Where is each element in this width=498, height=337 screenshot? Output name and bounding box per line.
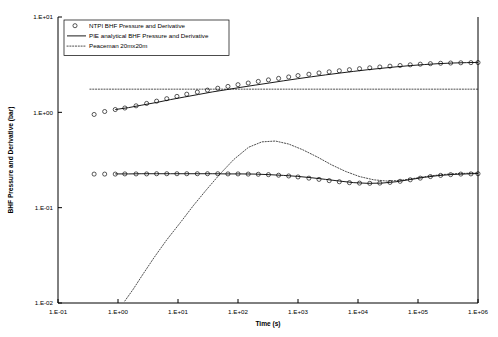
data-point-marker (307, 176, 311, 180)
legend-label: Peaceman 20mx20m (89, 42, 147, 49)
data-point-marker (317, 177, 321, 181)
y-tick-label: 1.E-01 (35, 204, 54, 211)
x-tick-label: 1.E+06 (468, 308, 488, 315)
x-axis-title: Time (s) (255, 320, 280, 328)
y-axis-title: BHF Pressure and Derivative (bar) (7, 106, 15, 213)
data-point-marker (92, 112, 96, 116)
data-point-marker (287, 75, 291, 79)
x-tick-label: 1.E+04 (348, 308, 368, 315)
x-tick-label: 1.E-01 (49, 308, 68, 315)
data-point-marker (185, 92, 189, 96)
x-tick-label: 1.E+00 (108, 308, 128, 315)
axis-frame (58, 17, 478, 303)
x-tick-label: 1.E+01 (168, 308, 188, 315)
chart-figure: 1.E-011.E+001.E+011.E+021.E+031.E+041.E+… (0, 0, 498, 337)
data-point-marker (327, 70, 331, 74)
data-point-marker (307, 72, 311, 76)
data-point-marker (256, 79, 260, 83)
data-point-marker (205, 88, 209, 92)
data-point-marker (418, 62, 422, 66)
x-tick-label: 1.E+02 (228, 308, 248, 315)
data-point-marker (277, 76, 281, 80)
data-point-marker (266, 78, 270, 82)
data-point-marker (337, 180, 341, 184)
series-path (115, 62, 478, 109)
legend-label: NTPI BHF Pressure and Derivative (89, 22, 185, 29)
data-point-marker (92, 172, 96, 176)
legend-label: PIE analytical BHF Pressure and Derivati… (89, 32, 209, 39)
y-tick-label: 1.E-02 (35, 299, 54, 306)
data-point-marker (195, 90, 199, 94)
data-point-marker (347, 68, 351, 72)
data-point-marker (216, 86, 220, 90)
data-point-marker (103, 172, 107, 176)
data-point-marker (246, 81, 250, 85)
data-point-marker (408, 63, 412, 67)
plot-frame (58, 17, 478, 303)
x-tick-label: 1.E+03 (288, 308, 308, 315)
series-path (125, 141, 478, 301)
data-point-marker (317, 71, 321, 75)
x-axis-ticks: 1.E-011.E+001.E+011.E+021.E+031.E+041.E+… (49, 299, 489, 315)
chart-svg: 1.E-011.E+001.E+011.E+021.E+031.E+041.E+… (0, 0, 498, 337)
chart-legend: NTPI BHF Pressure and DerivativePIE anal… (64, 20, 229, 56)
data-point-marker (337, 69, 341, 73)
data-point-marker (226, 84, 230, 88)
y-tick-label: 1.E+00 (33, 109, 53, 116)
data-series-group (90, 60, 480, 301)
data-point-marker (296, 74, 300, 78)
y-tick-label: 1.E+01 (33, 13, 53, 20)
data-point-marker (103, 109, 107, 113)
data-point-marker (236, 83, 240, 87)
x-tick-label: 1.E+05 (408, 308, 428, 315)
